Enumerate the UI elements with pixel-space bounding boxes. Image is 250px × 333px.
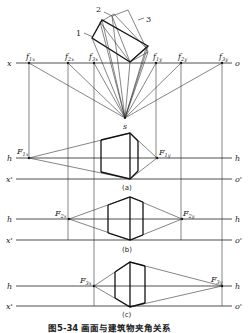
label-xprime-a: x' (6, 175, 13, 184)
label-s: s (123, 122, 127, 131)
label-f3x: f3x (88, 52, 98, 62)
label-h-b-right: h (235, 215, 240, 224)
label-f1x: f1x (25, 52, 35, 62)
label-xprime-b: x' (6, 236, 13, 245)
panel-label-c: (c) (122, 311, 132, 319)
panel-c: h h x' o' F3x F3y (c) (6, 262, 242, 319)
label-o: o (235, 59, 240, 68)
label-F3x: F3x (79, 276, 92, 286)
label-x: x (7, 59, 12, 68)
label-f2y: f2y (177, 52, 187, 63)
label-F1y: F1y (158, 148, 171, 159)
label-oprime-b: o' (235, 236, 242, 245)
plan-label-3: 3 (146, 15, 151, 24)
station-point (124, 117, 126, 119)
picture-plane-trace: x o (7, 59, 240, 68)
label-h-c-right: h (235, 282, 240, 291)
panel-label-a: (a) (122, 184, 132, 192)
plan-label-2: 2 (96, 5, 101, 14)
plan-rect-2 (100, 14, 146, 62)
label-h-a: h (7, 154, 12, 163)
figure-caption: 图5-34 画面与建筑物夹角关系 (48, 323, 171, 333)
panel-label-b: (b) (122, 246, 132, 254)
label-h-c: h (7, 282, 12, 291)
plan-rect-1 (92, 20, 148, 62)
label-F2y: F2y (182, 209, 195, 220)
panel-b: h h x' o' F2x F2y (b) (6, 197, 242, 254)
perspective-angle-diagram: 1 2 3 x o f1x f2x f3x f1y f2y f3y (0, 0, 250, 333)
label-F1x: F1x (16, 147, 29, 157)
panel-a: h h x' o' F1x F1y (a) (6, 133, 242, 192)
label-f3y: f3y (218, 52, 228, 63)
plan-view: 1 2 3 (76, 5, 151, 118)
label-F2x: F2x (54, 209, 67, 219)
label-oprime-a: o' (235, 175, 242, 184)
label-h-b: h (7, 215, 12, 224)
label-F3y: F3y (210, 275, 223, 286)
label-oprime-c: o' (235, 302, 242, 311)
label-xprime-c: x' (6, 302, 13, 311)
label-f2x: f2x (64, 52, 74, 62)
label-f1y: f1y (152, 52, 162, 63)
plan-label-1: 1 (76, 29, 81, 38)
label-h-a-right: h (235, 154, 240, 163)
plan-sight-lines (92, 16, 148, 118)
